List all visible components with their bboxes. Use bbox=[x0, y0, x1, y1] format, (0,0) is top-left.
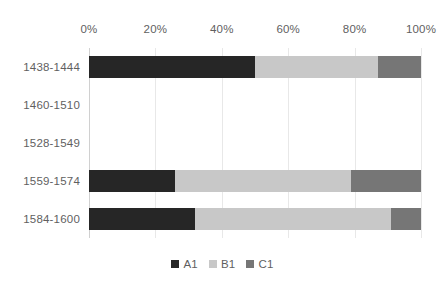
x-tick-label: 40% bbox=[210, 23, 234, 35]
x-tick-label: 20% bbox=[144, 23, 168, 35]
bar-segment-B1 bbox=[255, 56, 378, 78]
bar-segment-A1 bbox=[89, 208, 195, 230]
gridline-100% bbox=[421, 48, 422, 238]
y-tick-label-1460-1510: 1460-1510 bbox=[23, 99, 80, 111]
legend-swatch-icon bbox=[209, 260, 217, 268]
legend-label: B1 bbox=[221, 258, 235, 270]
y-axis: 1438-14441460-15101528-15491559-15741584… bbox=[0, 48, 80, 238]
bar-row bbox=[89, 170, 421, 192]
y-tick-label-1584-1600: 1584-1600 bbox=[23, 213, 80, 225]
bar-segment-A1 bbox=[89, 170, 175, 192]
bar-segment-C1 bbox=[351, 170, 421, 192]
plot-area: 0%20%40%60%80%100% bbox=[89, 48, 421, 238]
stacked-bar-chart: 1438-14441460-15101528-15491559-15741584… bbox=[0, 0, 445, 288]
x-tick-label: 100% bbox=[406, 23, 436, 35]
legend-item-C1[interactable]: C1 bbox=[246, 258, 273, 270]
legend: A1B1C1 bbox=[0, 258, 445, 270]
x-tick-label: 0% bbox=[80, 23, 97, 35]
legend-label: C1 bbox=[258, 258, 273, 270]
legend-item-A1[interactable]: A1 bbox=[171, 258, 197, 270]
bar-segment-A1 bbox=[89, 56, 255, 78]
legend-swatch-icon bbox=[246, 260, 254, 268]
y-tick-label-1528-1549: 1528-1549 bbox=[23, 137, 80, 149]
legend-label: A1 bbox=[183, 258, 197, 270]
bar-row bbox=[89, 208, 421, 230]
bar-row bbox=[89, 56, 421, 78]
bar-segment-B1 bbox=[175, 170, 351, 192]
legend-item-B1[interactable]: B1 bbox=[209, 258, 235, 270]
bar-segment-C1 bbox=[378, 56, 421, 78]
x-tick-label: 80% bbox=[343, 23, 367, 35]
y-tick-label-1438-1444: 1438-1444 bbox=[23, 61, 80, 73]
legend-swatch-icon bbox=[171, 260, 179, 268]
y-tick-label-1559-1574: 1559-1574 bbox=[23, 175, 80, 187]
x-tick-label: 60% bbox=[276, 23, 300, 35]
bar-segment-B1 bbox=[195, 208, 391, 230]
bar-segment-C1 bbox=[391, 208, 421, 230]
